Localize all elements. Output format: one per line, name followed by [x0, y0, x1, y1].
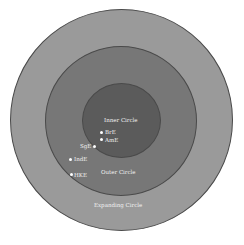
point-marker-bre: [100, 131, 103, 134]
point-label-inde: IndE: [74, 157, 87, 163]
inner-circle-label: Inner Circle: [104, 118, 138, 124]
point-marker-ame: [100, 138, 103, 141]
expanding-circle-label: Expanding Circle: [94, 203, 142, 209]
point-marker-inde: [69, 158, 72, 161]
point-marker-sge: [93, 145, 96, 148]
point-label-sge: SgE: [80, 144, 91, 150]
outer-circle-label: Outer Circle: [101, 170, 136, 176]
point-label-bre: BrE: [105, 130, 116, 136]
point-label-ame: AmE: [105, 138, 118, 144]
point-label-hke: HKE: [74, 173, 87, 179]
point-marker-hke: [70, 173, 73, 176]
